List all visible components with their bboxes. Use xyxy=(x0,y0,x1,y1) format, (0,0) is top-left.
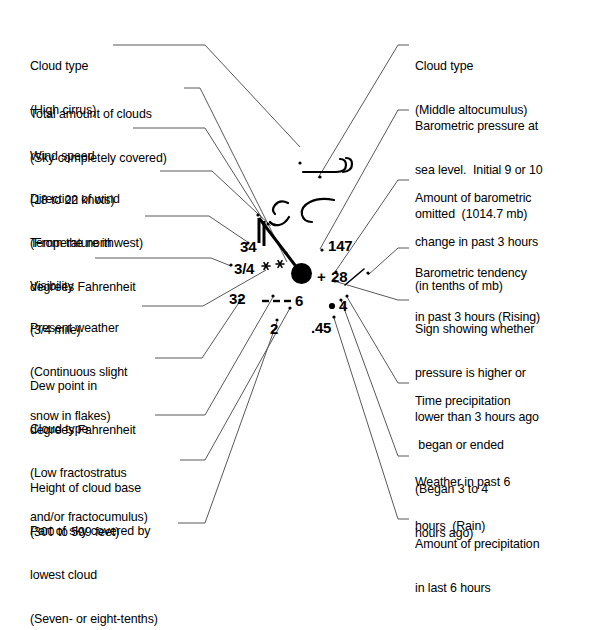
sky-cover-circle-icon xyxy=(291,263,312,284)
value-part-of-sky-covered: 2 xyxy=(270,320,278,337)
value-pressure-change: 28 xyxy=(331,268,347,285)
high-cirrus-icon xyxy=(303,158,352,172)
value-pressure-change-sign: + xyxy=(317,268,326,285)
value-visibility: 3/4 xyxy=(234,260,254,277)
value-dew-point: 32 xyxy=(229,290,245,307)
snow-flakes-icon xyxy=(262,261,284,270)
value-temperature: 34 xyxy=(240,238,256,255)
value-cloud-base-height: 6 xyxy=(295,292,303,309)
rain-dot-icon xyxy=(329,303,335,309)
value-past-weather-code: 4 xyxy=(339,297,347,314)
value-precipitation-amount: .45 xyxy=(311,319,331,336)
middle-altocumulus-icon xyxy=(270,199,334,225)
value-barometric-pressure: 147 xyxy=(328,237,352,254)
label-line: (Seven- or eight-tenths) xyxy=(30,612,158,627)
tendency-rising-icon xyxy=(345,269,364,285)
label-line: in last 6 hours xyxy=(415,581,539,596)
